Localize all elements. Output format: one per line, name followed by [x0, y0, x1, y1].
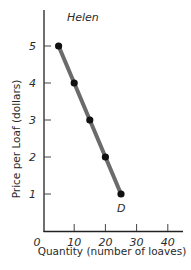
axes	[44, 10, 184, 232]
y-tick-label: 1	[29, 188, 36, 201]
y-axis-label: Price per Loaf (dollars)	[10, 80, 22, 199]
y-tick-label: 3	[29, 114, 36, 127]
y-tick-label: 5	[29, 40, 36, 53]
y-tick-label: 2	[29, 151, 36, 164]
demand-chart: 12345010203040 Helen D Quantity (number …	[0, 0, 191, 270]
data-point	[117, 190, 124, 197]
chart-title: Helen	[67, 11, 99, 24]
y-tick-label: 4	[29, 77, 36, 90]
x-axis-label: Quantity (number of loaves)	[38, 245, 187, 257]
data-point	[102, 153, 109, 160]
data-point	[55, 42, 62, 49]
data-point	[71, 79, 78, 86]
demand-curve	[55, 42, 125, 197]
curve-label-d: D	[117, 202, 125, 215]
data-point	[86, 116, 93, 123]
